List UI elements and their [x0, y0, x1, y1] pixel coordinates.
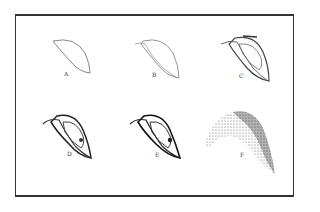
shape-stippled-f — [203, 108, 278, 176]
panel-b — [133, 38, 183, 80]
shape-outline-a — [50, 38, 95, 78]
panel-label-b: B — [152, 71, 156, 78]
panel-f — [203, 108, 278, 176]
panel-label-c: C — [239, 72, 244, 79]
panel-label-f: F — [240, 151, 244, 158]
panel-label-a: A — [64, 70, 68, 77]
shape-outline-b — [133, 38, 183, 80]
panel-c — [219, 34, 274, 84]
panel-label-d: D — [67, 150, 72, 157]
shape-outline-c — [219, 34, 274, 84]
panel-label-e: E — [155, 151, 159, 158]
panel-a — [50, 38, 95, 78]
